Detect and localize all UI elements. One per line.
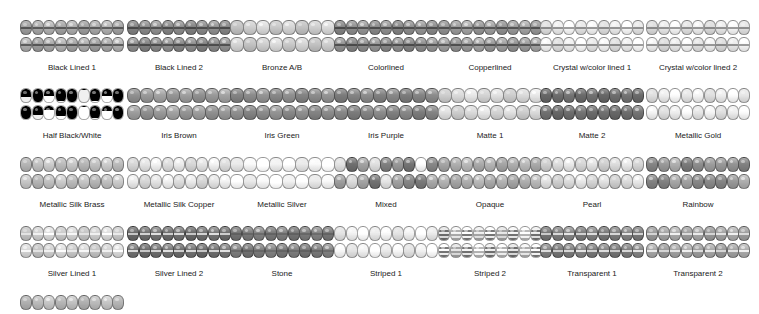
bead-icon — [586, 37, 598, 52]
bead-icon — [552, 88, 564, 103]
bead-icon — [598, 174, 610, 189]
bead-icon — [89, 157, 101, 172]
bead-icon — [230, 226, 242, 241]
bead-icon — [127, 37, 139, 52]
bead-icon — [704, 105, 716, 120]
bead-icon — [738, 88, 750, 103]
bead-icon — [243, 20, 257, 35]
bead-icon — [208, 20, 220, 35]
bead-icon — [552, 157, 564, 172]
bead-icon — [738, 174, 750, 189]
bead-icon — [256, 105, 270, 120]
bead-icon — [507, 174, 519, 189]
bead-icon — [295, 20, 309, 35]
bead-icon — [20, 243, 32, 258]
bead-icon — [669, 243, 681, 258]
bead-icon — [598, 20, 610, 35]
bead-icon — [586, 105, 598, 120]
bead-icon — [415, 174, 427, 189]
bead-icon — [308, 20, 322, 35]
bead-icon — [357, 20, 369, 35]
bead-icon — [230, 174, 244, 189]
bead-icon — [357, 174, 369, 189]
bead-strand — [230, 20, 334, 35]
bead-icon — [496, 37, 508, 52]
bead-icon — [43, 20, 55, 35]
bead-icon — [575, 105, 587, 120]
bead-strand — [438, 174, 542, 189]
bead-icon — [477, 105, 491, 120]
bead-icon — [269, 88, 283, 103]
bead-icon — [242, 226, 254, 241]
bead-strand — [20, 157, 124, 172]
bead-icon — [704, 226, 716, 241]
bead-icon — [311, 243, 323, 258]
bead-icon — [78, 20, 90, 35]
bead-swatch: Black Lined 1 — [20, 20, 124, 82]
bead-icon — [269, 157, 283, 172]
bead-swatch: Transparent 1 — [540, 226, 644, 288]
bead-icon — [55, 105, 67, 120]
bead-icon — [55, 243, 67, 258]
bead-icon — [308, 37, 322, 52]
bead-icon — [575, 20, 587, 35]
bead-icon — [256, 88, 270, 103]
bead-icon — [403, 157, 415, 172]
bead-icon — [646, 105, 658, 120]
bead-icon — [507, 20, 519, 35]
bead-icon — [563, 174, 575, 189]
bead-icon — [112, 88, 124, 103]
bead-icon — [357, 37, 369, 52]
bead-swatch: Half Black/White — [20, 88, 124, 150]
bead-icon — [586, 226, 598, 241]
bead-icon — [150, 226, 162, 241]
bead-icon — [295, 88, 309, 103]
bead-icon — [55, 88, 67, 103]
bead-icon — [166, 88, 180, 103]
bead-icon — [295, 157, 309, 172]
bead-icon — [438, 20, 450, 35]
bead-icon — [609, 88, 621, 103]
bead-icon — [321, 20, 335, 35]
bead-icon — [681, 243, 693, 258]
bead-icon — [450, 37, 462, 52]
bead-icon — [658, 243, 670, 258]
bead-swatch: Metallic Silver — [230, 157, 334, 219]
bead-icon — [484, 174, 496, 189]
bead-strand — [127, 37, 231, 52]
bead-icon — [658, 20, 670, 35]
bead-icon — [425, 105, 439, 120]
bead-icon — [66, 174, 78, 189]
bead-icon — [242, 243, 254, 258]
bead-icon — [681, 20, 693, 35]
bead-icon — [516, 105, 530, 120]
bead-icon — [173, 226, 185, 241]
bead-icon — [185, 37, 197, 52]
bead-icon — [243, 157, 257, 172]
bead-icon — [519, 243, 531, 258]
bead-icon — [230, 20, 244, 35]
bead-icon — [89, 37, 101, 52]
bead-strand — [438, 105, 542, 120]
bead-icon — [392, 243, 404, 258]
bead-strand — [438, 20, 542, 35]
bead-icon — [196, 243, 208, 258]
bead-icon — [43, 243, 55, 258]
bead-icon — [632, 105, 644, 120]
bead-icon — [230, 88, 244, 103]
bead-icon — [646, 20, 658, 35]
bead-icon — [20, 157, 32, 172]
bead-icon — [185, 20, 197, 35]
bead-swatch: Colorlined — [334, 20, 438, 82]
bead-icon — [357, 226, 369, 241]
bead-strand — [334, 37, 438, 52]
bead-icon — [399, 105, 413, 120]
bead-icon — [507, 226, 519, 241]
bead-icon — [139, 157, 151, 172]
bead-icon — [66, 295, 78, 310]
bead-swatch: Iris Brown — [127, 88, 231, 150]
bead-icon — [101, 243, 113, 258]
bead-icon — [704, 20, 716, 35]
bead-swatch: Stone — [230, 226, 334, 288]
bead-icon — [692, 88, 704, 103]
